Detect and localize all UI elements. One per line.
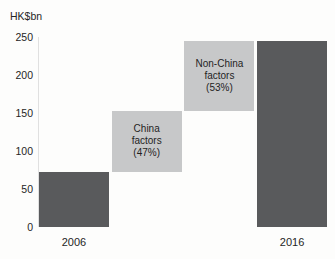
y-tick-label-100: 100 [3, 145, 33, 157]
bar-china-factors-47: Chinafactors(47%) [112, 111, 182, 173]
bar-label-text: Chinafactors(47%) [132, 123, 162, 159]
bar-non-china-factors-53: Non-Chinafactors(53%) [184, 41, 254, 111]
y-tick-label-0: 0 [3, 221, 33, 233]
y-tick-label-200: 200 [3, 69, 33, 81]
bar-label-text: Non-Chinafactors(53%) [195, 58, 243, 94]
y-tick-label-50: 50 [3, 183, 33, 195]
x-tick-label-2016: 2016 [257, 236, 327, 248]
y-axis-unit-label: HK$bn [10, 10, 42, 22]
y-tick-label-250: 250 [3, 31, 33, 43]
y-tick-label-150: 150 [3, 107, 33, 119]
waterfall-chart: HK$bn 050100150200250 Chinafactors(47%)N… [0, 0, 335, 259]
bar-2006 [39, 172, 109, 227]
bar-2016 [257, 41, 327, 227]
x-tick-label-2006: 2006 [39, 236, 109, 248]
